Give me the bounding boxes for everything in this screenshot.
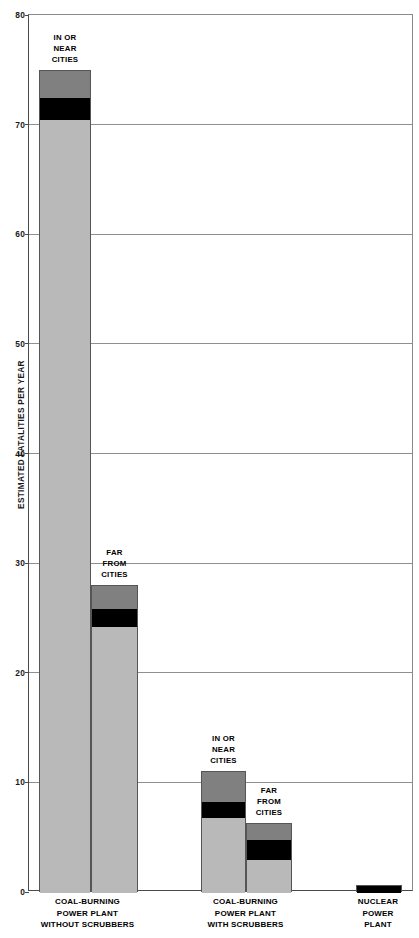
y-tick-mark-20 — [25, 672, 29, 673]
bar-1-segment-upper-estimate — [40, 71, 90, 98]
y-tick-label-10: 10 — [3, 777, 25, 787]
bar-2-segment-upper-estimate — [92, 586, 137, 609]
bar-1-segment-mid-band — [40, 98, 90, 120]
y-tick-mark-30 — [25, 563, 29, 564]
y-tick-label-40: 40 — [3, 449, 25, 459]
bar-annotation-1: IN OR NEAR CITIES — [29, 32, 101, 65]
y-tick-label-60: 60 — [3, 229, 25, 239]
y-tick-label-70: 70 — [3, 120, 25, 130]
category-label-coal-without-scrubbers: COAL-BURNING POWER PLANT WITHOUT SCRUBBE… — [16, 896, 159, 931]
bar-4 — [246, 823, 292, 892]
bar-4-segment-upper-estimate — [247, 824, 291, 840]
bar-2 — [91, 585, 138, 892]
bar-1 — [39, 70, 91, 892]
y-tick-label-30: 30 — [3, 558, 25, 568]
category-label-coal-with-scrubbers: COAL-BURNING POWER PLANT WITH SCRUBBERS — [176, 896, 315, 931]
y-tick-label-20: 20 — [3, 668, 25, 678]
bar-annotation-3: IN OR NEAR CITIES — [191, 733, 256, 766]
plot-area: 80706050403020100IN OR NEAR CITIESFAR FR… — [28, 14, 413, 891]
y-tick-label-80: 80 — [3, 10, 25, 20]
y-tick-label-50: 50 — [3, 339, 25, 349]
bar-4-segment-mid-band — [247, 840, 291, 860]
y-tick-mark-40 — [25, 453, 29, 454]
category-label-nuclear: NUCLEAR POWER PLANT — [333, 896, 419, 931]
bar-annotation-4: FAR FROM CITIES — [236, 785, 302, 818]
y-tick-mark-10 — [25, 782, 29, 783]
y-tick-mark-0 — [25, 892, 29, 893]
bar-5 — [356, 885, 402, 892]
bar-3-segment-lower-estimate — [202, 818, 245, 893]
bar-5-segment-mid-band — [357, 886, 401, 893]
fatalities-bar-chart: ESTIMATED FATALITIES PER YEAR 8070605040… — [0, 0, 419, 938]
bar-4-segment-lower-estimate — [247, 860, 291, 893]
bar-2-segment-lower-estimate — [92, 627, 137, 893]
bar-2-segment-mid-band — [92, 609, 137, 627]
y-tick-mark-80 — [25, 15, 29, 16]
y-tick-mark-60 — [25, 234, 29, 235]
y-tick-mark-50 — [25, 343, 29, 344]
y-axis-title: ESTIMATED FATALITIES PER YEAR — [17, 350, 26, 520]
bar-annotation-2: FAR FROM CITIES — [81, 547, 148, 580]
bar-1-segment-lower-estimate — [40, 120, 90, 893]
y-tick-mark-70 — [25, 124, 29, 125]
